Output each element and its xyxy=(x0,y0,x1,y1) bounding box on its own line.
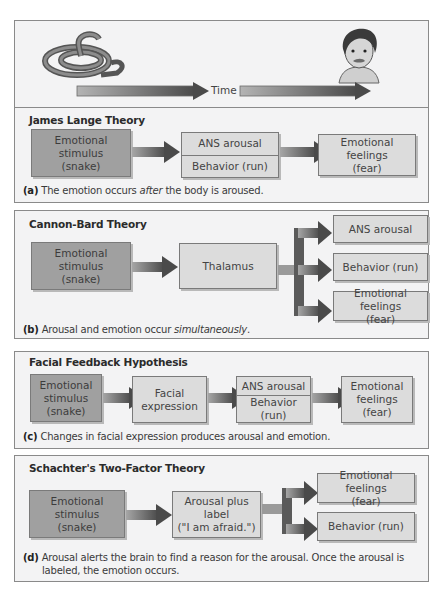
ans-arousal-box: ANS arousal xyxy=(333,215,428,243)
arrow-icon xyxy=(126,504,172,526)
facial-feedback-panel: Facial Feedback Hypothesis Emotional sti… xyxy=(14,351,429,449)
arousal-label-box: Arousal plus label ("I am afraid.") xyxy=(172,491,261,538)
ans-behavior-box: ANS arousal Behavior (run) xyxy=(181,132,279,178)
emotional-feelings-box: Emotional feelings (fear) xyxy=(317,473,415,503)
branching-arrow-icon xyxy=(262,478,318,544)
schachter-panel: Schachter's Two-Factor Theory Emotional … xyxy=(14,455,429,582)
behavior-box: Behavior (run) xyxy=(317,512,415,541)
snake-icon xyxy=(41,29,131,79)
facial-feedback-title: Facial Feedback Hypothesis xyxy=(29,356,188,368)
time-label: Time xyxy=(211,84,237,96)
arrow-icon xyxy=(132,141,180,163)
ans-arousal-cell: ANS arousal xyxy=(237,377,310,395)
stimulus-box: Emotional stimulus (snake) xyxy=(30,374,102,422)
arrow-icon xyxy=(132,256,178,278)
ans-behavior-box: ANS arousal Behavior (run) xyxy=(236,376,311,423)
emotional-feelings-box: Emotional feelings (fear) xyxy=(318,134,416,176)
emotional-feelings-box: Emotional feelings (fear) xyxy=(341,376,413,423)
emotional-feelings-box: Emotional feelings (fear) xyxy=(333,291,428,321)
schachter-caption: (d) Arousal alerts the brain to find a r… xyxy=(23,551,404,577)
stimulus-box: Emotional stimulus (snake) xyxy=(29,490,125,538)
james-lange-title: James Lange Theory xyxy=(29,114,145,126)
behavior-box: Behavior (run) xyxy=(333,253,428,281)
behavior-cell: Behavior (run) xyxy=(182,155,278,178)
cannon-bard-title: Cannon-Bard Theory xyxy=(29,218,147,230)
behavior-cell: Behavior (run) xyxy=(237,395,310,422)
frightened-face-icon xyxy=(335,27,383,83)
thalamus-box: Thalamus xyxy=(179,243,277,289)
stimulus-box: Emotional stimulus (snake) xyxy=(31,129,131,177)
cannon-bard-panel: Cannon-Bard Theory Emotional stimulus (s… xyxy=(14,210,429,339)
ans-arousal-cell: ANS arousal xyxy=(182,133,278,155)
facial-expression-box: Facial expression xyxy=(132,376,207,423)
time-arrow-left xyxy=(77,82,209,100)
james-lange-panel: Time James Lange Theory Emotional stimul… xyxy=(14,20,429,203)
time-arrow-right xyxy=(240,82,371,100)
james-lange-caption: (a) The emotion occurs after the body is… xyxy=(23,184,263,197)
facial-feedback-caption: (c) Changes in facial expression produce… xyxy=(23,430,330,443)
branching-arrow-icon xyxy=(278,215,332,325)
timeline-section: Time xyxy=(15,21,428,108)
stimulus-box: Emotional stimulus (snake) xyxy=(31,242,131,290)
cannon-bard-caption: (b) Arousal and emotion occur simultaneo… xyxy=(23,323,250,336)
schachter-title: Schachter's Two-Factor Theory xyxy=(29,462,205,474)
